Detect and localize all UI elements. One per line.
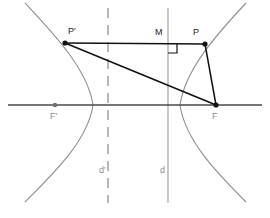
geometry-canvas <box>0 0 270 218</box>
segment-p-prime-to-p <box>65 43 205 44</box>
segment-p-to-f <box>205 44 216 105</box>
label-f: F <box>212 112 218 121</box>
point-f-prime-dot <box>53 103 57 107</box>
hyperbola-figure: P' P M F' F d' d <box>0 0 270 218</box>
label-d-prime: d' <box>99 166 106 175</box>
hyperbola-right-branch <box>180 3 246 202</box>
right-angle-marker-icon <box>168 44 177 53</box>
point-f-dot <box>213 102 218 107</box>
point-p-dot <box>202 41 207 46</box>
point-p-prime-dot <box>62 40 67 45</box>
label-d: d <box>160 166 165 175</box>
segment-p-prime-to-f <box>65 43 216 105</box>
label-p-prime: P' <box>68 27 76 36</box>
label-f-prime: F' <box>50 112 57 121</box>
hyperbola-left-branch <box>25 3 93 202</box>
label-p: P <box>193 28 199 37</box>
label-m: M <box>155 28 163 37</box>
